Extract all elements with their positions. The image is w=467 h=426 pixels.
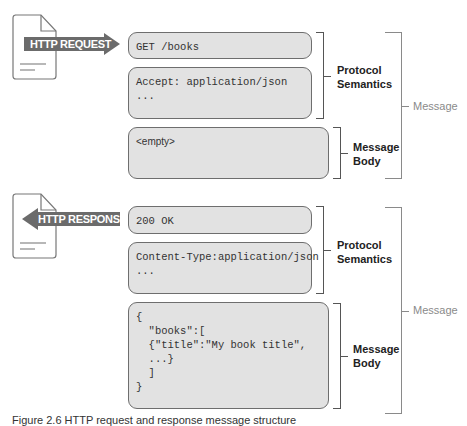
request-line-box: GET /books xyxy=(128,32,312,59)
message-body-bracket xyxy=(333,303,341,409)
message-bracket xyxy=(385,32,402,179)
status-line-box: 200 OK xyxy=(128,206,312,234)
request-headers-box: Accept: application/json ... xyxy=(128,67,312,119)
message-bracket xyxy=(385,207,402,414)
http-request-label: HTTP REQUEST xyxy=(30,38,111,50)
request-body-box: <empty> xyxy=(128,127,329,179)
protocol-semantics-label: Protocol Semantics xyxy=(337,238,392,266)
message-label: Message xyxy=(413,304,458,316)
protocol-semantics-label: Protocol Semantics xyxy=(337,63,392,91)
figure-caption: Figure 2.6 HTTP request and response mes… xyxy=(12,414,296,426)
response-body-box: { "books":[ {"title":"My book title", ..… xyxy=(128,302,329,409)
protocol-semantics-bracket xyxy=(316,206,324,294)
message-body-bracket xyxy=(333,127,341,179)
protocol-semantics-bracket xyxy=(316,32,324,119)
http-response-label: HTTP RESPONSE xyxy=(38,213,127,225)
response-headers-box: Content-Type:application/json ... xyxy=(128,242,312,294)
message-label: Message xyxy=(413,100,458,112)
